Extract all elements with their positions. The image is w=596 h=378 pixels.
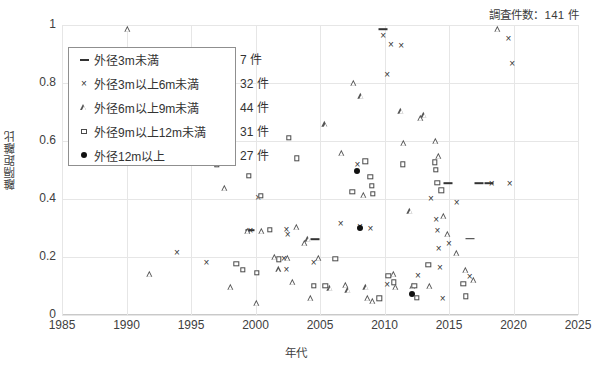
x-tick-label: 1985 <box>32 318 92 332</box>
data-point-cross <box>434 227 441 234</box>
data-point-triangle <box>146 271 153 278</box>
data-point-square <box>460 281 465 286</box>
data-point-triangle <box>307 295 314 302</box>
data-point-triangle <box>494 26 501 33</box>
data-point-triangle <box>440 213 447 220</box>
x-tick-label: 2010 <box>355 318 415 332</box>
triangle-glyph <box>227 283 234 290</box>
y-axis-title: 離隔距離比 <box>2 130 18 190</box>
data-point-square <box>433 167 438 172</box>
triangle-glyph <box>453 249 460 256</box>
data-point-triangle <box>345 287 352 294</box>
gridline-horizontal <box>62 315 578 316</box>
x-tick-label: 2015 <box>419 318 479 332</box>
legend-item-2[interactable]: 外径3m以上6m未満 <box>69 72 235 96</box>
data-point-square <box>414 295 419 300</box>
data-point-triangle <box>253 300 260 307</box>
triangle-glyph <box>444 231 451 238</box>
data-point-triangle <box>350 80 357 87</box>
data-point-square <box>246 173 251 178</box>
data-point-square <box>432 159 437 164</box>
data-point-triangle <box>462 267 469 274</box>
data-point-cross <box>506 180 513 187</box>
triangle-glyph <box>244 228 251 235</box>
gridline-vertical <box>514 25 515 315</box>
data-point-square <box>254 270 259 275</box>
survey-count-label: 調査件数：141 件 <box>489 6 579 22</box>
data-point-triangle <box>221 185 228 192</box>
legend-item-count: 44 件 <box>240 95 290 119</box>
data-point-cross <box>398 42 405 49</box>
data-point-square <box>333 256 338 261</box>
triangle-glyph <box>360 191 367 198</box>
data-point-triangle <box>284 255 291 262</box>
data-point-dash <box>465 238 474 240</box>
data-point-cross <box>384 71 391 78</box>
data-point-square <box>435 180 440 185</box>
legend-item-label: 外径6m以上9m未満 <box>94 99 199 116</box>
data-point-dot <box>81 152 87 158</box>
data-point-triangle <box>321 121 328 128</box>
triangle-glyph <box>407 207 414 214</box>
data-point-dot <box>357 225 363 231</box>
data-point-square <box>258 193 263 198</box>
triangle-glyph <box>426 283 433 290</box>
triangle-glyph <box>221 185 228 192</box>
triangle-glyph <box>305 236 312 243</box>
triangle-glyph <box>258 228 265 235</box>
legend-item-count: 7 件 <box>240 47 290 71</box>
data-point-cross <box>509 59 516 66</box>
y-tick-label: 0 <box>10 307 56 321</box>
x-tick-label: 1990 <box>97 318 157 332</box>
square-marker <box>76 123 92 139</box>
data-point-triangle <box>435 152 442 159</box>
legend-item-count: 27 件 <box>240 142 290 166</box>
legend-counts: 7 件32 件44 件31 件27 件 <box>240 47 290 166</box>
data-point-cross <box>436 264 443 271</box>
data-point-square <box>411 283 416 288</box>
data-point-cross <box>367 225 374 232</box>
data-point-cross <box>439 295 446 302</box>
data-point-triangle <box>315 255 322 262</box>
data-point-cross <box>427 195 434 202</box>
y-tick-label: 0.2 <box>10 249 56 263</box>
legend-item-label: 外径12m以上 <box>94 147 165 164</box>
data-point-triangle <box>363 283 370 290</box>
legend-item-3[interactable]: 外径6m以上9m未満 <box>69 96 235 120</box>
data-point-square <box>391 280 396 285</box>
dash-marker <box>76 52 92 68</box>
triangle-glyph <box>435 152 442 159</box>
data-point-dash <box>474 182 483 184</box>
triangle-glyph <box>289 278 296 285</box>
data-point-triangle <box>432 138 439 145</box>
data-point-square <box>439 188 444 193</box>
data-point-square <box>426 262 431 267</box>
data-point-triangle <box>470 277 477 284</box>
gridline-vertical <box>578 25 579 315</box>
data-point-triangle <box>289 278 296 285</box>
dot-marker <box>76 147 92 163</box>
data-point-triangle <box>360 191 367 198</box>
legend-item-count: 31 件 <box>240 118 290 142</box>
legend-item-5[interactable]: 外径12m以上 <box>69 143 235 167</box>
data-point-triangle <box>407 207 414 214</box>
triangle-glyph <box>321 121 328 128</box>
data-point-triangle <box>444 231 451 238</box>
triangle-glyph <box>470 277 477 284</box>
data-point-cross <box>380 31 387 38</box>
legend: 外径3m未満外径3m以上6m未満外径6m以上9m未満外径9m以上12m未満外径1… <box>68 47 236 166</box>
data-point-cross <box>337 220 344 227</box>
legend-item-1[interactable]: 外径3m未満 <box>69 48 235 72</box>
data-point-triangle <box>258 228 265 235</box>
cross-marker <box>76 76 92 92</box>
legend-item-label: 外径3m未満 <box>94 51 159 68</box>
data-point-triangle <box>369 297 376 304</box>
triangle-glyph <box>350 80 357 87</box>
legend-item-4[interactable]: 外径9m以上12m未満 <box>69 119 235 143</box>
triangle-glyph <box>363 283 370 290</box>
triangle-glyph <box>432 138 439 145</box>
data-point-square <box>368 174 373 179</box>
triangle-glyph <box>124 26 131 33</box>
data-point-triangle <box>227 283 234 290</box>
data-point-triangle <box>453 249 460 256</box>
